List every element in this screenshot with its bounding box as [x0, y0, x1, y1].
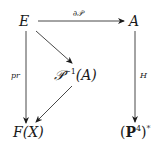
node-f-of-x: F(X) [13, 125, 44, 139]
node-p4-star: (P4)* [120, 125, 151, 139]
inverse-superscript: −1 [64, 67, 76, 76]
arrow-pinv-to-fx [36, 86, 72, 122]
node-p-inverse-a: 𝒫−1(A) [54, 68, 97, 82]
p-inverse-argument: (A) [76, 67, 97, 83]
node-a: A [129, 14, 139, 28]
node-e: E [19, 14, 29, 28]
p4-star: * [147, 124, 151, 133]
p4-bold-p: P [125, 124, 136, 140]
label-partial-p: ∂𝒫 [73, 10, 83, 18]
label-h: H [140, 72, 147, 80]
arrow-e-to-pinv [36, 31, 72, 63]
calligraphic-p: 𝒫 [54, 67, 64, 83]
label-pr: pr [11, 72, 20, 80]
